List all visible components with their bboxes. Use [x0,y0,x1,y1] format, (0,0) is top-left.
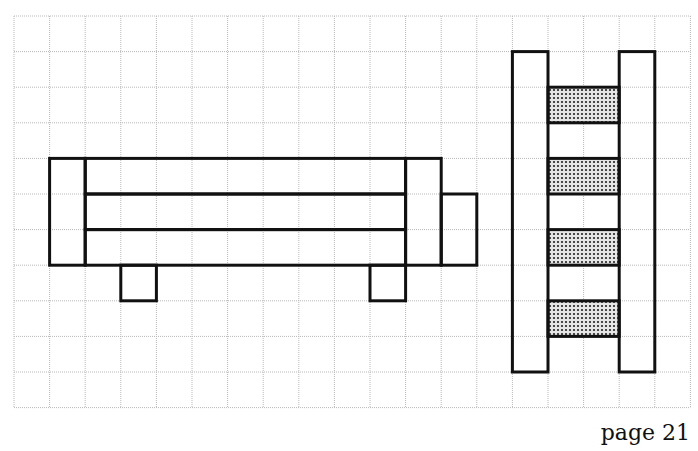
ladder-right-rail [619,52,655,372]
bench-left-end [50,158,86,265]
bench-bottom-plank [85,230,405,266]
bench-top-plank [85,158,405,194]
bench-leg-left [121,265,157,301]
ladder-rung-1 [548,87,619,123]
bench-middle-plank [85,194,405,230]
graph-paper-grid [14,16,690,408]
ladder-rung-2 [548,158,619,194]
bench-leg-right [370,265,406,301]
ladder-rung-4 [548,301,619,337]
bench-right-end [406,158,442,265]
grid-diagram [0,0,698,451]
page-number-label: page 21 [601,420,690,445]
shapes [50,52,655,372]
ladder-rung-3 [548,230,619,266]
ladder-left-rail [512,52,548,372]
